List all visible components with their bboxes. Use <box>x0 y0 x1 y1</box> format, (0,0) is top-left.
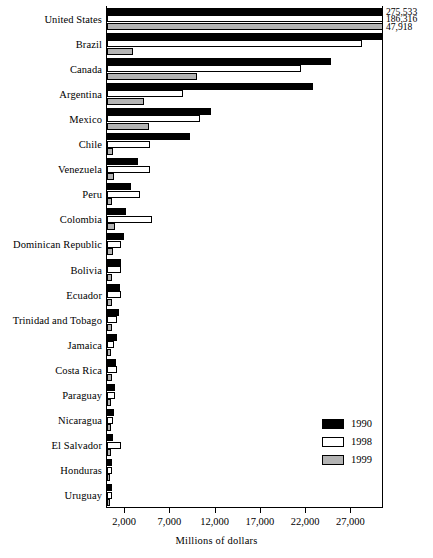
bar-1990 <box>107 409 114 416</box>
category-label: Trinidad and Tobago <box>0 314 102 325</box>
bar-1998 <box>107 442 121 449</box>
bar-1990 <box>107 233 124 240</box>
bar-1998 <box>107 341 114 348</box>
bar-1999 <box>107 73 197 80</box>
x-tick-label: 7,000 <box>158 516 182 528</box>
legend-label: 1999 <box>351 453 372 466</box>
x-tick <box>169 508 170 513</box>
bar-1999 <box>107 148 113 155</box>
category-label: Chile <box>0 139 102 150</box>
bar-group <box>107 132 382 157</box>
category-label: Nicaragua <box>0 415 102 426</box>
bar-1998 <box>107 241 121 248</box>
bar-1990 <box>107 384 115 391</box>
bar-1990 <box>107 459 112 466</box>
bar-1999 <box>107 198 112 205</box>
bar-1990 <box>107 334 117 341</box>
bar-group <box>107 332 382 357</box>
bar-group <box>107 383 382 408</box>
value-label: 47,918 <box>386 22 412 32</box>
x-tick-label: 12,000 <box>200 516 229 528</box>
category-label: Canada <box>0 63 102 74</box>
category-label: Mexico <box>0 113 102 124</box>
category-label: Argentina <box>0 88 102 99</box>
bar-1999 <box>107 248 113 255</box>
bar-1999 <box>107 374 112 381</box>
bar-1998 <box>107 392 115 399</box>
category-label: Paraguay <box>0 390 102 401</box>
bar-group <box>107 282 382 307</box>
bar-group <box>107 6 382 31</box>
chart-legend: 199019981999 <box>322 416 378 470</box>
x-tick <box>260 508 261 513</box>
category-label: Brazil <box>0 38 102 49</box>
category-label: United States <box>0 13 102 24</box>
bar-1998 <box>107 15 383 22</box>
legend-label: 1998 <box>351 435 372 448</box>
bar-1999 <box>107 123 149 130</box>
bar-1998 <box>107 366 117 373</box>
bar-1999 <box>107 474 110 481</box>
bar-1998 <box>107 90 183 97</box>
x-axis: 2,0007,00012,00017,00022,00027,000 <box>106 508 383 538</box>
bar-1990 <box>107 133 190 140</box>
category-label: Colombia <box>0 214 102 225</box>
bar-group <box>107 232 382 257</box>
x-tick <box>305 508 306 513</box>
x-axis-title: Millions of dollars <box>0 535 433 546</box>
x-tick <box>124 508 125 513</box>
bar-1998 <box>107 40 362 47</box>
x-tick-label: 17,000 <box>245 516 274 528</box>
category-label: Uruguay <box>0 490 102 501</box>
category-label: Peru <box>0 189 102 200</box>
legend-item: 1999 <box>322 452 378 470</box>
legend-item: 1998 <box>322 434 378 452</box>
bar-1999 <box>107 299 112 306</box>
bar-1990 <box>107 359 116 366</box>
category-label: Ecuador <box>0 289 102 300</box>
category-label: Costa Rica <box>0 364 102 375</box>
bar-1990 <box>107 108 211 115</box>
bar-1999 <box>107 349 111 356</box>
bar-1990 <box>107 183 131 190</box>
bar-1998 <box>107 166 150 173</box>
bar-group <box>107 81 382 106</box>
bar-1999 <box>107 173 114 180</box>
bar-1998 <box>107 492 112 499</box>
bar-1990 <box>107 434 113 441</box>
bar-1998 <box>107 141 150 148</box>
bar-1998 <box>107 417 113 424</box>
x-tick-label: 27,000 <box>336 516 365 528</box>
bar-1998 <box>107 115 200 122</box>
bar-group <box>107 307 382 332</box>
bar-1999 <box>107 449 111 456</box>
bar-group <box>107 56 382 81</box>
bar-chart: United StatesBrazilCanadaArgentinaMexico… <box>0 0 433 558</box>
bar-group <box>107 157 382 182</box>
bar-1998 <box>107 191 140 198</box>
bar-group <box>107 182 382 207</box>
bar-1990 <box>107 284 120 291</box>
bar-1990 <box>107 259 121 266</box>
category-label: Venezuela <box>0 164 102 175</box>
bar-1999 <box>107 23 383 30</box>
category-label: Honduras <box>0 465 102 476</box>
bar-1999 <box>107 274 112 281</box>
legend-swatch-1990 <box>322 419 344 429</box>
bar-1990 <box>107 58 331 65</box>
x-tick <box>350 508 351 513</box>
bar-1998 <box>107 291 121 298</box>
legend-label: 1990 <box>351 417 372 430</box>
bar-1998 <box>107 316 117 323</box>
bar-1990 <box>107 8 383 15</box>
bar-1998 <box>107 266 121 273</box>
legend-swatch-1999 <box>322 455 344 465</box>
category-label: Jamaica <box>0 339 102 350</box>
bar-group <box>107 31 382 56</box>
category-label: Bolivia <box>0 264 102 275</box>
x-tick-label: 2,000 <box>112 516 136 528</box>
bar-1999 <box>107 324 112 331</box>
x-tick-label: 22,000 <box>291 516 320 528</box>
bar-group <box>107 257 382 282</box>
bar-1990 <box>107 309 119 316</box>
